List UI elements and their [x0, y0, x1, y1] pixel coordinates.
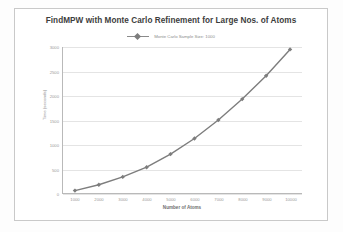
x-axis-tick-label: 2000 [94, 197, 103, 202]
y-axis-tick-label: 0 [57, 192, 59, 197]
chart-frame: FindMPW with Monte Carlo Refinement for … [14, 8, 328, 221]
plot-area: 050010001500200025003000 100020003000400… [62, 47, 302, 194]
data-point-marker [73, 188, 77, 192]
x-axis-tick-label: 7000 [214, 197, 223, 202]
gridline [63, 194, 302, 195]
x-axis-tick-label: 5000 [166, 197, 175, 202]
data-series-line [63, 47, 302, 193]
x-axis-tick-label: 4000 [142, 197, 151, 202]
chart-title: FindMPW with Monte Carlo Refinement for … [15, 16, 327, 25]
chart-screenshot: FindMPW with Monte Carlo Refinement for … [0, 0, 343, 232]
y-axis-tick-label: 2000 [50, 94, 59, 99]
x-axis-tick-label: 1000 [70, 197, 79, 202]
x-axis-tick-label: 9000 [262, 197, 271, 202]
line-marker-icon [127, 33, 149, 40]
x-axis-tick-label: 10000 [285, 197, 297, 202]
y-axis-tick-label: 1000 [50, 143, 59, 148]
data-point-marker [121, 175, 125, 179]
chart-legend: Monte Carlo Sample Size: 1000 [15, 33, 327, 40]
data-point-marker [97, 183, 101, 187]
y-axis-tick-label: 500 [52, 167, 59, 172]
x-axis-tick-label: 3000 [118, 197, 127, 202]
x-axis-title: Number of Atoms [62, 205, 302, 210]
legend-entry-label: Monte Carlo Sample Size: 1000 [154, 34, 215, 39]
y-axis-tick-label: 1500 [50, 118, 59, 123]
series-line [75, 49, 290, 190]
y-axis-title: Time (seconds) [42, 90, 47, 120]
x-axis-tick-label: 6000 [190, 197, 199, 202]
x-axis-tick-label: 8000 [238, 197, 247, 202]
chart-area: FindMPW with Monte Carlo Refinement for … [15, 9, 327, 220]
y-axis-tick-label: 3000 [50, 45, 59, 50]
y-axis-tick-label: 2500 [50, 69, 59, 74]
